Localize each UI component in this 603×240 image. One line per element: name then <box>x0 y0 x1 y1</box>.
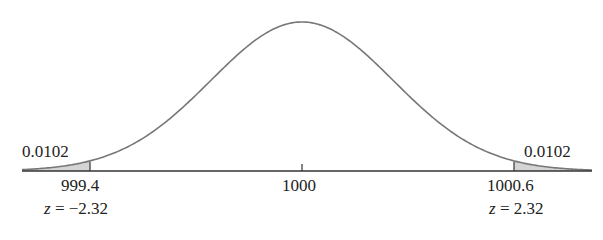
z-value: = −2.32 <box>51 199 108 218</box>
right-area-label: 0.0102 <box>524 142 571 162</box>
tick-label-left: 999.4 <box>61 176 99 196</box>
normal-curve <box>22 22 592 170</box>
z-value: = 2.32 <box>496 199 544 218</box>
z-label-right: z = 2.32 <box>489 199 543 219</box>
z-variable: z <box>44 199 51 218</box>
tick-label-right: 1000.6 <box>487 176 534 196</box>
tick-label-center: 1000 <box>282 176 316 196</box>
z-variable: z <box>489 199 496 218</box>
z-label-left: z = −2.32 <box>44 199 108 219</box>
left-area-label: 0.0102 <box>22 142 69 162</box>
